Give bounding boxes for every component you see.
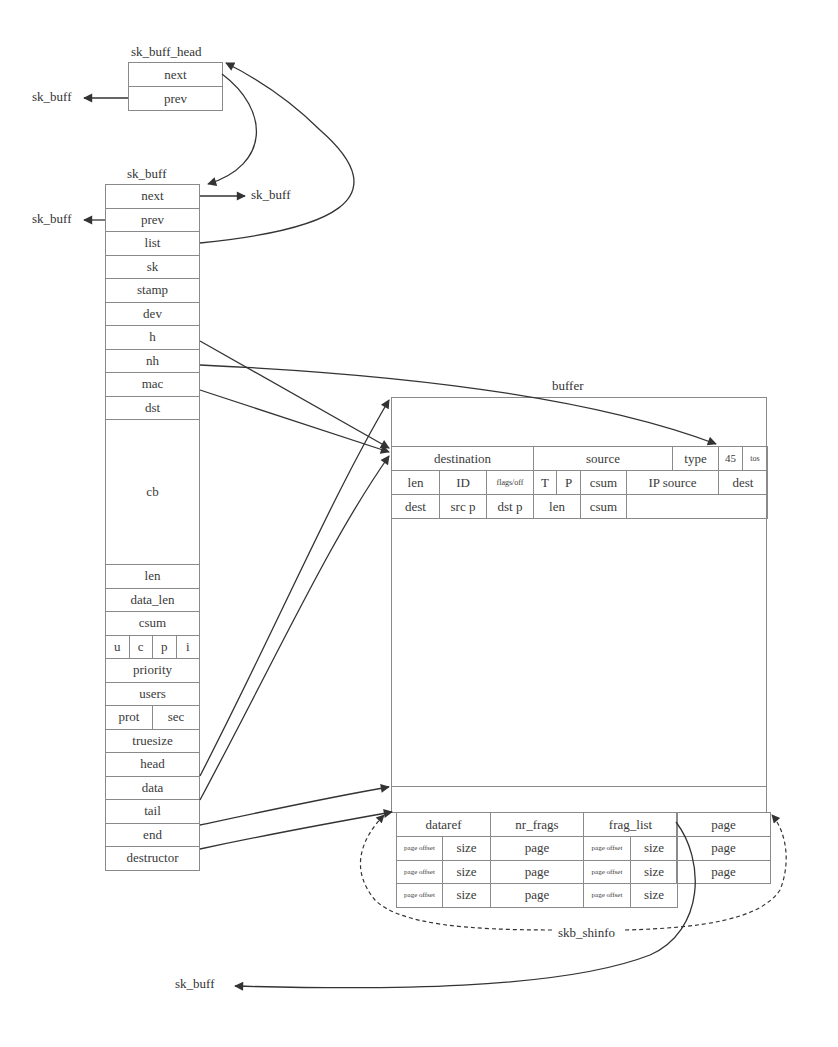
shinfo-nr-frags: nr_frags [491,813,584,837]
field-mac: mac [106,373,200,397]
field-priority: priority [106,659,200,683]
frag-page-offset: page offset [584,837,631,861]
external-sk-buff-frag-list-label: sk_buff [175,976,214,992]
sk-buff-title: sk_buff [127,166,166,182]
field-cb: cb [106,420,200,565]
field-u: u [106,635,130,659]
ip-ttl: T [534,471,557,495]
field-tail: tail [106,800,200,824]
frag-page: page [677,837,771,861]
ip-version-ihl: 45 [719,447,743,471]
eth-type: type [673,447,719,471]
external-sk-buff-prev-label: sk_buff [32,211,71,227]
field-truesize: truesize [106,729,200,753]
field-dst: dst [106,396,200,420]
field-len: len [106,565,200,589]
field-i: i [176,635,200,659]
field-data: data [106,776,200,800]
frag-page-offset: page offset [397,884,443,908]
udp-csum: csum [581,495,627,519]
field-csum: csum [106,612,200,636]
frag-size: size [443,860,491,884]
payload-start [627,495,768,519]
frag-page-offset: page offset [584,884,631,908]
field-end: end [106,823,200,847]
field-c: c [129,635,153,659]
external-sk-buff-next-label: sk_buff [251,187,290,203]
field-destructor: destructor [106,847,200,871]
frag-page: page [677,813,771,837]
field-nh: nh [106,349,200,373]
mac-arrow [200,390,389,452]
field-next: next [129,63,223,87]
list-arrow [200,63,354,243]
udp-dst-port: dst p [487,495,534,519]
field-sec: sec [153,706,200,730]
skb-shinfo-label: skb_shinfo [556,925,617,941]
field-h: h [106,326,200,350]
tail-arrow [200,787,389,825]
field-prev: prev [129,87,223,111]
field-prev: prev [106,208,200,232]
h-arrow [200,341,389,448]
head-arrow [200,400,389,776]
ip-csum: csum [581,471,627,495]
frag-page-offset: page offset [397,837,443,861]
frag-size: size [443,837,491,861]
frag-page-offset: page offset [584,860,631,884]
frag-page: page [491,860,584,884]
field-next: next [106,185,200,209]
buffer-title: buffer [552,378,584,394]
frag-size: size [631,860,678,884]
udp-len: len [534,495,581,519]
frag-size: size [631,884,678,908]
frag-page: page [491,884,584,908]
data-arrow [200,456,389,800]
sk-buff-head-struct: next prev [128,62,223,111]
field-data-len: data_len [106,588,200,612]
sk-buff-struct: next prev list sk stamp dev h nh mac dst… [105,184,200,871]
shinfo-frag-list: frag_list [584,813,678,837]
field-list: list [106,232,200,256]
eth-destination: destination [392,447,534,471]
field-dev: dev [106,302,200,326]
shinfo-dataref: dataref [397,813,491,837]
external-sk-buff-label: sk_buff [32,89,71,105]
eth-source: source [534,447,673,471]
packet-headers: destination source type 45 tos len ID fl… [391,446,768,519]
ip-proto: P [557,471,581,495]
end-arrow [200,812,392,849]
ip-dest-cont: dest [392,495,440,519]
ip-flags-off: flags/off [487,471,534,495]
ip-dest: dest [719,471,768,495]
ip-source: IP source [627,471,719,495]
field-prot: prot [106,706,153,730]
field-stamp: stamp [106,279,200,303]
frag-page: page [677,860,771,884]
frag-page: page [491,837,584,861]
frag-size: size [443,884,491,908]
field-head: head [106,753,200,777]
tail-marker-line [391,786,767,787]
udp-src-port: src p [440,495,487,519]
ip-tos: tos [743,447,768,471]
field-sk: sk [106,255,200,279]
field-p: p [153,635,177,659]
sk-buff-head-title: sk_buff_head [131,44,202,60]
shinfo-page-column: page page page [676,812,771,884]
frag-size: size [631,837,678,861]
skb-shared-info: dataref nr_frags frag_list page offset s… [396,812,678,908]
field-users: users [106,682,200,706]
ip-len: len [392,471,440,495]
frag-page-offset: page offset [397,860,443,884]
ip-id: ID [440,471,487,495]
